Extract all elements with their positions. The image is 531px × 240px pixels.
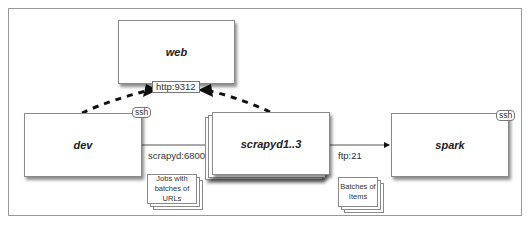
- spark-node: spark: [391, 113, 509, 177]
- spark-ssh-tag: ssh: [496, 110, 515, 121]
- scrapyd-to-web-dashed-arrow: [205, 90, 270, 112]
- jobs-note-text: Jobs with batches of URLs: [149, 174, 195, 204]
- scrapyd-node: scrapyd1..3: [212, 112, 330, 175]
- batches-note: Batches of Items: [338, 177, 378, 207]
- dev-node-label: dev: [74, 139, 93, 151]
- scrapyd-node-label: scrapyd1..3: [241, 138, 302, 150]
- dev-ssh-tag: ssh: [132, 107, 151, 118]
- scrapyd-to-spark-label: ftp:21: [338, 150, 362, 161]
- dev-to-scrapyd-label: scrapyd:6800: [148, 150, 205, 161]
- web-node-label: web: [166, 46, 187, 58]
- spark-node-label: spark: [435, 139, 464, 151]
- web-node: web: [118, 20, 235, 84]
- batches-note-text: Batches of Items: [340, 182, 376, 202]
- dev-node: dev: [24, 113, 142, 177]
- jobs-note: Jobs with batches of URLs: [147, 174, 197, 204]
- web-http-port: http:9312: [152, 81, 200, 93]
